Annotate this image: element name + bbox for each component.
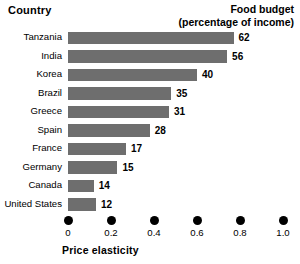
x-axis-tick-label: 0.2 [91, 227, 131, 239]
food-budget-subtitle: (percentage of income) [114, 16, 294, 29]
bar [68, 32, 234, 45]
category-label: Germany [0, 161, 62, 173]
bar-value-label: 28 [155, 124, 166, 137]
bar-value-label: 62 [239, 31, 250, 44]
x-axis-tick-label: 0.4 [134, 227, 174, 239]
bar-value-label: 12 [101, 198, 112, 211]
x-axis: Price elasticity 00.20.40.60.81.0 [0, 216, 300, 264]
bar-row: Brazil35 [0, 86, 300, 105]
category-label: United States [0, 198, 62, 210]
bar [68, 69, 197, 82]
x-axis-title: Price elasticity [62, 244, 139, 256]
bar-row: United States12 [0, 197, 300, 216]
category-label: France [0, 142, 62, 154]
category-label: Spain [0, 124, 62, 136]
bar-value-label: 40 [202, 68, 213, 81]
food-budget-title: Food budget [230, 3, 294, 15]
bar-value-label: 15 [122, 161, 133, 174]
bar-row: Canada14 [0, 178, 300, 197]
bar-row: Germany15 [0, 160, 300, 179]
bar [68, 124, 150, 137]
x-axis-tick-label: 0.8 [220, 227, 260, 239]
category-label: Korea [0, 68, 62, 80]
tick-dot-icon [64, 216, 73, 225]
column-header-food-budget: Food budget (percentage of income) [114, 3, 294, 28]
bar [68, 180, 94, 193]
tick-dot-icon [193, 216, 202, 225]
bar [68, 50, 227, 63]
bar-row: Spain28 [0, 123, 300, 142]
bar-row: India56 [0, 49, 300, 68]
category-label: Greece [0, 105, 62, 117]
tick-dot-icon [279, 216, 288, 225]
category-label: Brazil [0, 87, 62, 99]
bar [68, 106, 169, 119]
x-axis-tick-label: 0.6 [177, 227, 217, 239]
bar-row: Korea40 [0, 67, 300, 86]
tick-dot-icon [236, 216, 245, 225]
column-header-country: Country [8, 4, 52, 16]
bar-row: Tanzania62 [0, 30, 300, 49]
bar-row: Greece31 [0, 104, 300, 123]
bar [68, 198, 96, 211]
category-label: Canada [0, 179, 62, 191]
price-elasticity-bar-chart: Country Food budget (percentage of incom… [0, 0, 300, 264]
bar-value-label: 56 [232, 50, 243, 63]
tick-dot-icon [107, 216, 116, 225]
bar-value-label: 17 [131, 142, 142, 155]
bar-value-label: 35 [176, 87, 187, 100]
bar-rows: Tanzania62India56Korea40Brazil35Greece31… [0, 30, 300, 215]
bar [68, 161, 117, 174]
x-axis-tick-label: 1.0 [263, 227, 300, 239]
x-axis-tick-label: 0 [48, 227, 88, 239]
bar-value-label: 14 [99, 179, 110, 192]
bar [68, 87, 171, 100]
category-label: India [0, 50, 62, 62]
bar-row: France17 [0, 141, 300, 160]
category-label: Tanzania [0, 31, 62, 43]
bar [68, 143, 126, 156]
tick-dot-icon [150, 216, 159, 225]
bar-value-label: 31 [174, 105, 185, 118]
